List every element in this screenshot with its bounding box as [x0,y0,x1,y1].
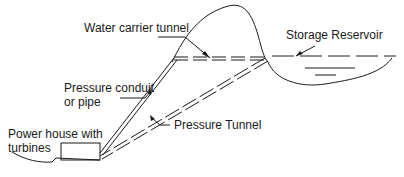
hill-profile [172,5,392,85]
label-pressure-conduit: Pressure conduit [64,81,154,95]
label-water-carrier-tunnel: Water carrier tunnel [84,21,189,35]
label-power-house-cont: turbines [8,141,51,155]
water-carrier-tunnel [174,57,266,60]
diagram-canvas [0,0,404,177]
label-power-house: Power house with [8,127,103,141]
pressure-tunnel [100,58,268,159]
label-pressure-conduit-cont: or pipe [64,95,101,109]
power-house [61,143,100,160]
arrowhead-icon [296,51,303,56]
pressure-conduit [100,58,177,155]
label-storage-reservoir: Storage Reservoir [286,28,383,42]
label-pressure-tunnel: Pressure Tunnel [174,118,261,132]
